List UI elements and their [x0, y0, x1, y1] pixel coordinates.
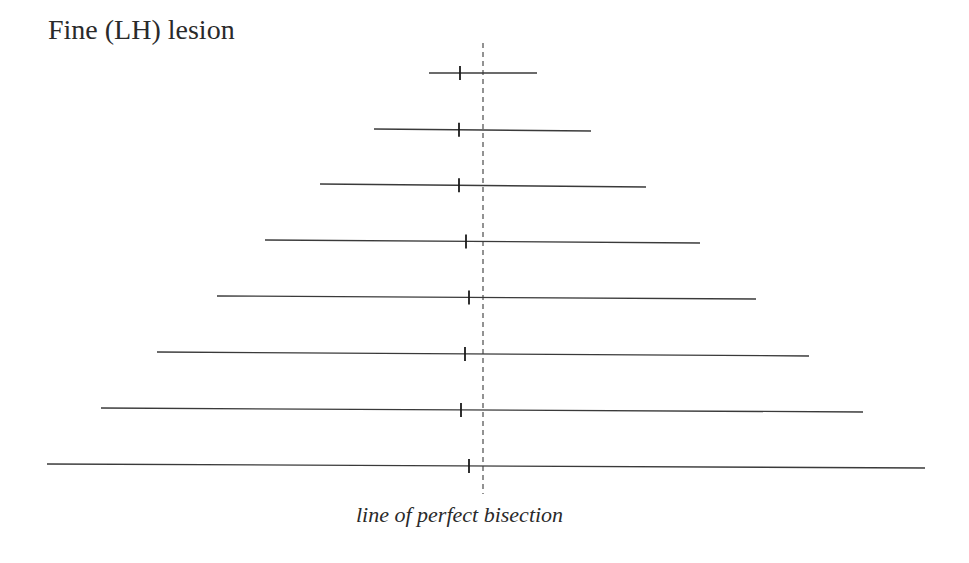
- horizontal-line: [374, 129, 591, 131]
- stimulus-line-8: [47, 459, 925, 473]
- stimulus-line-7: [101, 403, 863, 417]
- horizontal-line: [101, 408, 863, 412]
- horizontal-line: [320, 184, 646, 187]
- stimulus-lines: [47, 66, 925, 473]
- bisection-diagram: [0, 0, 969, 563]
- stimulus-line-5: [217, 290, 756, 304]
- horizontal-line: [217, 296, 756, 299]
- bisection-caption: line of perfect bisection: [356, 502, 563, 528]
- horizontal-line: [47, 464, 925, 468]
